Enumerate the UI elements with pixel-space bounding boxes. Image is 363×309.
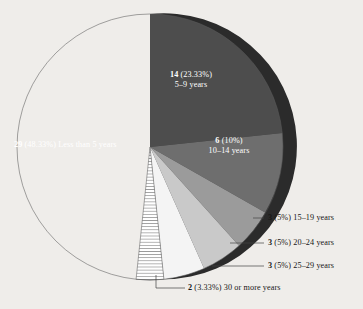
callout-label-25-29-years: 3 (5%) 25–29 years: [268, 261, 334, 271]
slice-text-less-than-5-years: (48.33%) Less than 5 years: [22, 140, 116, 149]
callout-text-15-19-years: (5%) 15–19 years: [272, 213, 334, 222]
callout-label-15-19-years: 3 (5%) 15–19 years: [268, 213, 334, 223]
slice-label-10-14-years-line2: 10–14 years: [193, 146, 265, 156]
callout-label-20-24-years: 3 (5%) 20–24 years: [268, 238, 334, 248]
slice-percent-10-14-years: (10%): [220, 136, 243, 145]
slice-label-5-9-years: 14 (23.33%) 5–9 years: [155, 70, 227, 89]
slice-label-5-9-years-line1: 14 (23.33%): [155, 70, 227, 80]
slice-label-10-14-years: 6 (10%) 10–14 years: [193, 136, 265, 155]
callout-text-30-or-more-years: (3.33%) 30 or more years: [192, 283, 280, 292]
callout-text-20-24-years: (5%) 20–24 years: [272, 238, 334, 247]
pie-chart-figure: 14 (23.33%) 5–9 years 6 (10%) 10–14 year…: [0, 0, 363, 309]
callout-text-25-29-years: (5%) 25–29 years: [272, 261, 334, 270]
callout-label-30-or-more-years: 2 (3.33%) 30 or more years: [188, 283, 281, 293]
slice-percent-5-9-years: (23.33%): [178, 70, 212, 79]
slice-label-10-14-years-line1: 6 (10%): [193, 136, 265, 146]
slice-label-less-than-5-years: 29 (48.33%) Less than 5 years: [14, 140, 117, 150]
slice-label-5-9-years-line2: 5–9 years: [155, 80, 227, 90]
